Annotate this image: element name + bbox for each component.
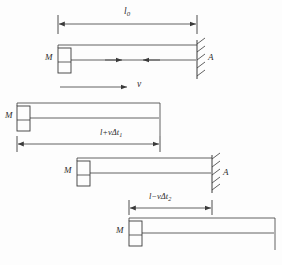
dimension-line-contracted — [129, 200, 212, 215]
label-expanded-length: l+vΔt1 — [100, 128, 122, 138]
label-velocity: v — [137, 80, 141, 90]
rod-rest — [58, 45, 197, 62]
dimension-line-l0 — [58, 15, 197, 34]
wall-A-1 — [197, 38, 205, 79]
mass-block-3 — [77, 161, 90, 186]
label-mass-1: M — [45, 53, 53, 62]
label-mass-2: M — [5, 111, 13, 120]
label-mass-3: M — [64, 166, 72, 175]
wall-A-2 — [212, 153, 220, 193]
label-wall-A-2: A — [223, 168, 229, 177]
mass-block-4 — [129, 221, 142, 246]
rod-expanded — [17, 103, 160, 136]
mass-block-2 — [17, 106, 30, 131]
dimension-line-expanded — [17, 136, 160, 152]
label-mass-4: M — [116, 226, 124, 235]
rod-contact — [77, 158, 212, 175]
mass-block-1 — [58, 48, 71, 73]
diagram-canvas — [0, 0, 282, 265]
label-contracted-length: l−vΔt2 — [149, 192, 171, 202]
label-rest-length: l0 — [124, 7, 130, 18]
label-wall-A-1: A — [208, 53, 214, 62]
rod-contracted — [129, 218, 275, 250]
physics-diagram-figure: l0 M A v l+vΔt1 M M A l−vΔt2 M — [0, 0, 282, 265]
